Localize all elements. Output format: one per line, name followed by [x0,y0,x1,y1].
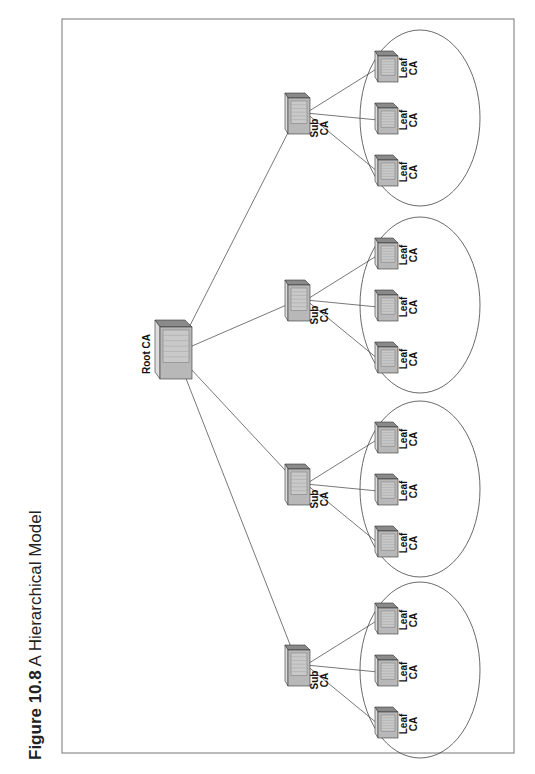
leaf-ca-label: LeafCA [398,244,419,265]
leaf-ca-server-icon [375,474,398,505]
leaf-ca-label: LeafCA [398,661,419,682]
leaf-ca-label: LeafCA [398,532,419,553]
sub-ca-label: SubCA [309,490,330,509]
leaf-ca-label: LeafCA [398,161,419,182]
leaf-ca-server-icon [375,155,398,186]
leaf-ca-label: LeafCA [398,348,419,369]
leaf-groups [360,30,480,758]
leaf-ca-server-icon [375,342,398,373]
leaf-ca-server-icon [375,238,398,269]
sub-ca-label: SubCA [309,671,330,690]
leaf-ca-server-icon [375,655,398,686]
sub-ca-server-icon [285,280,310,321]
leaf-ca-label: LeafCA [398,609,419,630]
ca-nodes: LeafCALeafCALeafCASubCALeafCALeafCALeafC… [141,51,419,738]
leaf-ca-server-icon [375,51,398,82]
sub-ca-server-icon [285,645,310,686]
leaf-ca-label: LeafCA [398,109,419,130]
leaf-ca-label: LeafCA [398,480,419,501]
leaf-ca-label: LeafCA [398,428,419,449]
leaf-ca-server-icon [375,707,398,738]
leaf-ca-server-icon [375,290,398,321]
sub-ca-label: SubCA [309,306,330,325]
sub-ca-server-icon [285,464,310,505]
sub-ca-label: SubCA [309,119,330,138]
leaf-ca-server-icon [375,603,398,634]
leaf-ca-server-icon [375,526,398,557]
leaf-ca-server-icon [375,103,398,134]
hierarchy-diagram: LeafCALeafCALeafCASubCALeafCALeafCALeafC… [0,0,535,774]
sub-ca-server-icon [285,93,310,134]
leaf-ca-label: LeafCA [398,296,419,317]
leaf-ca-server-icon [375,422,398,453]
root-ca-server-icon [155,320,192,379]
leaf-ca-label: LeafCA [398,57,419,78]
root-ca-label: Root CA [141,334,152,374]
connector-lines [176,68,378,724]
leaf-ca-label: LeafCA [398,713,419,734]
